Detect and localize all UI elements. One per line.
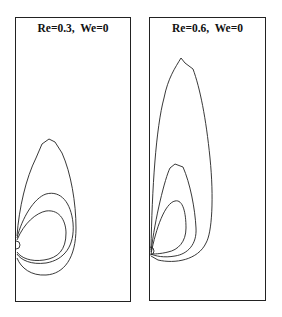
streamline-contours [150, 18, 267, 302]
panel-re-0-6: Re=0.6, We=0 [149, 17, 266, 301]
panel-re-0-3: Re=0.3, We=0 [15, 17, 131, 302]
streamline-contours [16, 18, 132, 303]
